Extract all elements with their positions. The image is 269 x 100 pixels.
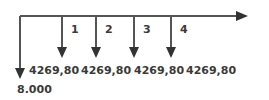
period-3-amount: 4269,80 [134,65,184,76]
initial-outflow-arrowhead-icon [15,68,25,79]
period-1-amount: 4269,80 [29,65,79,76]
period-2-label: 2 [105,24,113,35]
period-3-arrowhead-icon [129,47,139,58]
period-3-label: 3 [143,24,151,35]
period-2-arrowhead-icon [91,47,101,58]
initial-outflow-value: 8.000 [17,84,52,95]
time-axis-arrowhead-icon [236,11,248,21]
period-4-arrowhead-icon [166,47,176,58]
period-2-amount: 4269,80 [81,65,131,76]
period-1-arrowhead-icon [57,47,67,58]
period-1-label: 1 [71,24,79,35]
period-4-amount: 4269,80 [186,65,236,76]
period-4-label: 4 [180,24,188,35]
